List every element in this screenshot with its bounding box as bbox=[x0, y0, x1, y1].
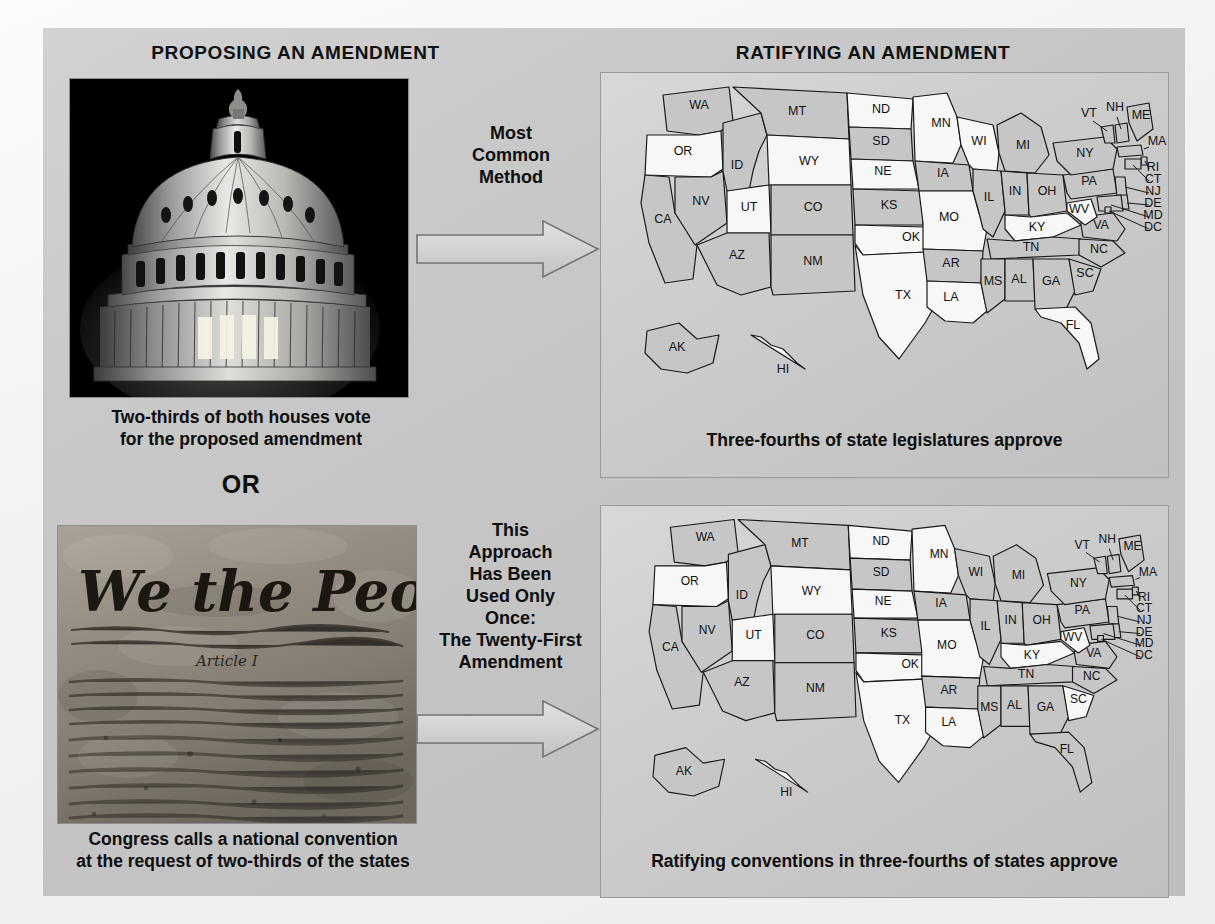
arrow-label-most-common-method: Most Common Method bbox=[426, 123, 596, 189]
state-label-dc: DC bbox=[1144, 220, 1162, 234]
arrow2-line5: Once: bbox=[485, 608, 536, 628]
state-ct bbox=[1117, 589, 1132, 599]
state-label-nc: NC bbox=[1083, 669, 1101, 683]
state-label-tn: TN bbox=[1018, 667, 1034, 681]
state-label-or: OR bbox=[674, 144, 693, 158]
state-id bbox=[723, 113, 767, 191]
state-label-al: AL bbox=[1007, 698, 1022, 712]
state-label-nd: ND bbox=[872, 534, 890, 548]
or-divider-label: OR bbox=[51, 468, 431, 500]
state-label-ok: OK bbox=[901, 657, 918, 671]
arrow2-line7: Amendment bbox=[458, 652, 562, 672]
state-label-ga: GA bbox=[1037, 700, 1055, 714]
arrow2-line3: Has Been bbox=[469, 564, 551, 584]
constitution-photo: We the People Article I bbox=[57, 525, 417, 824]
constitution-parchment-illustration: We the People Article I bbox=[58, 526, 416, 823]
state-label-in: IN bbox=[1009, 184, 1022, 198]
state-ma bbox=[1117, 145, 1143, 157]
constitution-heading-text: We the People bbox=[78, 558, 416, 624]
capitol-photo bbox=[69, 78, 409, 398]
arrow1-line1: Most bbox=[490, 123, 532, 143]
state-label-ia: IA bbox=[937, 166, 949, 180]
capitol-caption: Two-thirds of both houses vote for the p… bbox=[51, 406, 431, 451]
state-label-wv: WV bbox=[1063, 630, 1082, 644]
state-label-oh: OH bbox=[1033, 613, 1051, 627]
state-label-vt: VT bbox=[1081, 106, 1097, 120]
state-label-ak: AK bbox=[676, 764, 692, 778]
state-label-sd: SD bbox=[873, 565, 890, 579]
state-fl bbox=[1035, 307, 1099, 369]
arrow2-line2: Approach bbox=[468, 542, 552, 562]
state-label-nh: NH bbox=[1106, 100, 1124, 114]
constitution-article-text: Article I bbox=[194, 652, 259, 670]
state-label-me: ME bbox=[1132, 108, 1151, 122]
state-label-il: IL bbox=[980, 619, 990, 633]
state-label-ut: UT bbox=[741, 200, 758, 214]
state-label-sc: SC bbox=[1070, 692, 1087, 706]
state-label-in: IN bbox=[1005, 613, 1017, 627]
map-caption-conventions: Ratifying conventions in three-fourths o… bbox=[601, 851, 1168, 872]
state-label-ma: MA bbox=[1139, 565, 1158, 579]
us-map-conventions: WAORIDMTNDSDMNWIMINYVTNHMEMARICTNJDEMDDC… bbox=[601, 506, 1168, 854]
state-az bbox=[697, 233, 771, 295]
state-label-la: LA bbox=[941, 715, 957, 729]
arrow-label-twenty-first-amendment: This Approach Has Been Used Only Once: T… bbox=[403, 520, 618, 674]
state-label-wa: WA bbox=[689, 98, 709, 112]
state-dc bbox=[1098, 636, 1104, 642]
state-label-ar: AR bbox=[940, 683, 957, 697]
state-label-mn: MN bbox=[931, 116, 950, 130]
map-panel-legislatures: WAORIDMTNDSDMNWIMINYVTNHMEMARICTNJDEMDDC… bbox=[600, 72, 1169, 478]
state-label-il: IL bbox=[984, 190, 994, 204]
state-label-wi: WI bbox=[968, 565, 983, 579]
state-label-nv: NV bbox=[699, 623, 716, 637]
arrow-right-most-common bbox=[415, 218, 600, 280]
arrow1-line3: Method bbox=[479, 167, 543, 187]
state-label-wy: WY bbox=[799, 154, 820, 168]
state-label-mt: MT bbox=[791, 536, 809, 550]
state-label-mo: MO bbox=[939, 210, 959, 224]
arrow1-line2: Common bbox=[472, 145, 550, 165]
state-label-pa: PA bbox=[1081, 174, 1097, 188]
state-label-ms: MS bbox=[984, 274, 1003, 288]
state-label-nd: ND bbox=[872, 102, 890, 116]
state-label-ma: MA bbox=[1148, 134, 1167, 148]
state-label-al: AL bbox=[1011, 272, 1026, 286]
state-label-ut: UT bbox=[745, 628, 762, 642]
state-label-id: ID bbox=[736, 588, 748, 602]
state-label-ks: KS bbox=[881, 198, 898, 212]
state-label-mn: MN bbox=[930, 547, 949, 561]
state-label-sc: SC bbox=[1076, 266, 1093, 280]
state-label-ga: GA bbox=[1042, 274, 1061, 288]
arrow2-line4: Used Only bbox=[466, 586, 555, 606]
state-label-ms: MS bbox=[980, 700, 998, 714]
state-label-nv: NV bbox=[692, 194, 710, 208]
capitol-dome-illustration bbox=[70, 79, 408, 397]
state-label-or: OR bbox=[681, 574, 699, 588]
state-label-ne: NE bbox=[875, 594, 892, 608]
state-label-ca: CA bbox=[662, 640, 680, 654]
state-label-tx: TX bbox=[895, 713, 910, 727]
state-nh bbox=[1107, 554, 1121, 573]
arrow2-line1: This bbox=[492, 520, 529, 540]
state-label-ky: KY bbox=[1024, 648, 1040, 662]
state-label-tx: TX bbox=[895, 288, 912, 302]
state-dc bbox=[1105, 207, 1111, 213]
state-label-ok: OK bbox=[902, 230, 921, 244]
state-az bbox=[703, 661, 775, 721]
page-title-proposing: PROPOSING AN AMENDMENT bbox=[43, 42, 548, 64]
arrow-right-icon bbox=[415, 218, 600, 280]
state-label-ca: CA bbox=[654, 212, 672, 226]
state-label-nm: NM bbox=[803, 254, 822, 268]
state-ct bbox=[1125, 159, 1141, 169]
arrow-right-twenty-first bbox=[415, 698, 600, 760]
state-label-vt: VT bbox=[1074, 538, 1090, 552]
state-label-ak: AK bbox=[669, 340, 686, 354]
constitution-caption-line2: at the request of two-thirds of the stat… bbox=[76, 851, 410, 871]
state-label-me: ME bbox=[1123, 539, 1141, 553]
state-label-ne: NE bbox=[874, 164, 891, 178]
state-label-mi: MI bbox=[1012, 568, 1025, 582]
state-label-wy: WY bbox=[802, 584, 821, 598]
state-label-co: CO bbox=[804, 200, 823, 214]
state-label-hi: HI bbox=[780, 785, 792, 799]
page-background: PROPOSING AN AMENDMENT RATIFYING AN AMEN… bbox=[0, 0, 1215, 924]
